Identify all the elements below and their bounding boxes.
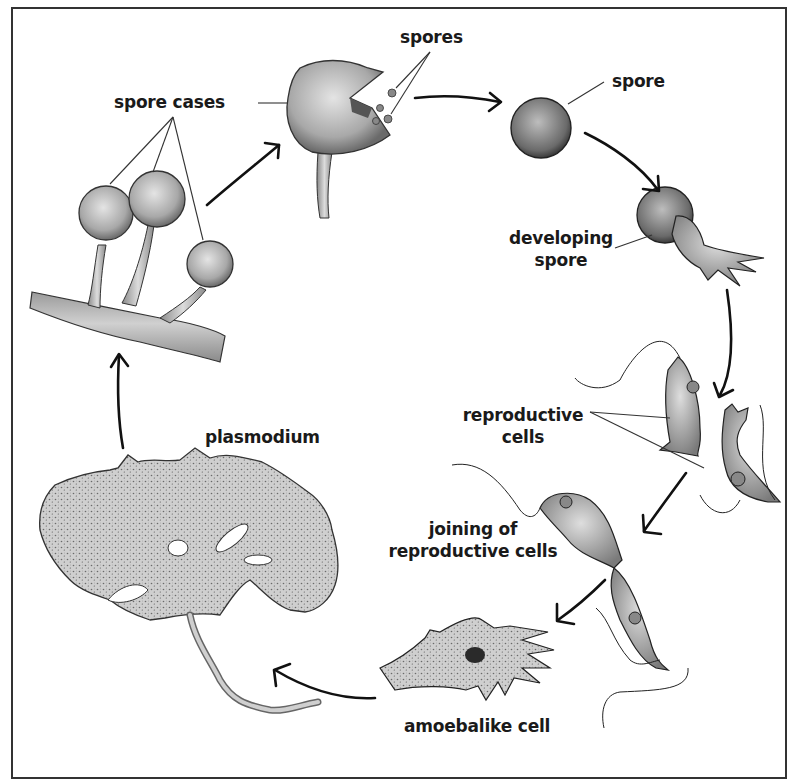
- arrow-to-amoeba: [558, 580, 605, 620]
- life-cycle-illustration: [0, 0, 802, 783]
- arrow-to-spore: [415, 96, 500, 102]
- label-reproductive-cells: reproductive cells: [455, 404, 591, 448]
- label-developing-spore-line2: spore: [503, 249, 619, 271]
- label-reproductive-cells-line1: reproductive: [455, 404, 591, 426]
- label-developing-spore-line1: developing: [503, 227, 619, 249]
- label-spores: spores: [400, 26, 463, 48]
- plasmodium-illustration: [40, 448, 338, 710]
- spore-illustration: [511, 82, 604, 158]
- arrow-to-reproductive: [720, 290, 731, 395]
- label-developing-spore: developing spore: [503, 227, 619, 271]
- arrow-to-plasmodium: [275, 670, 375, 698]
- label-joining-cells: joining of reproductive cells: [388, 518, 558, 562]
- reproductive-cells-illustration: [575, 341, 780, 512]
- label-reproductive-cells-line2: cells: [455, 426, 591, 448]
- label-plasmodium: plasmodium: [205, 426, 320, 448]
- label-spore: spore: [612, 70, 665, 92]
- amoebalike-cell-illustration: [380, 618, 554, 700]
- spore-cases-illustration: [30, 117, 233, 362]
- arrow-to-joining: [644, 473, 686, 531]
- label-joining-cells-line2: reproductive cells: [388, 540, 558, 562]
- arrow-to-open-case: [207, 145, 279, 205]
- arrow-to-spore-cases: [118, 355, 123, 448]
- label-amoebalike-cell: amoebalike cell: [404, 715, 550, 737]
- label-spore-cases: spore cases: [114, 91, 225, 113]
- arrow-to-developing: [585, 133, 658, 190]
- developing-spore-illustration: [615, 187, 764, 286]
- label-joining-cells-line1: joining of: [388, 518, 558, 540]
- open-spore-case-illustration: [258, 52, 430, 218]
